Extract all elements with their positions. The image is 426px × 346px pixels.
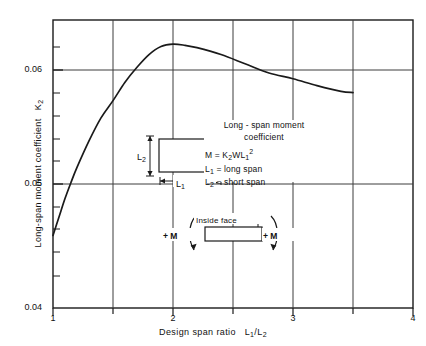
x-ticks [53, 308, 413, 316]
moment-label-left: + M [163, 231, 177, 241]
y-axis-title: Long-span moment coefficient K2 [33, 74, 44, 274]
x-tick-label-2: 2 [163, 313, 183, 323]
x-tick-label-4: 4 [403, 313, 423, 323]
x-tick-label-1: 1 [43, 313, 63, 323]
annotation-equation: M = K2WL12 [205, 146, 323, 164]
x-axis-title-ratio: L1/L2 [239, 327, 267, 337]
plan-dimension-label-short: L2 [137, 152, 146, 163]
annotation-def-long-span: L1 = long span [205, 164, 323, 178]
x-tick-label-3: 3 [283, 313, 303, 323]
x-axis-title: Design span ratio L1/L2 [0, 327, 426, 338]
y-axis-title-text: Long-span moment coefficient [33, 119, 43, 248]
annotation-text-block: Long - span moment coefficient M = K2WL1… [205, 120, 323, 191]
x-axis-title-text: Design span ratio [159, 327, 236, 337]
annotation-line-1: Long - span moment [205, 120, 323, 132]
annotation-def-short-span: L2 = short span [205, 177, 323, 191]
moment-label-right: + M [263, 231, 277, 241]
figure-container: 0.06 0.05 0.04 1 2 3 4 Long-span moment … [0, 0, 426, 346]
annotation-line-2: coefficient [205, 132, 323, 144]
y-tick-label-004: 0.04 [8, 302, 42, 312]
inside-face-label: Inside face [196, 216, 237, 225]
plan-dimension-label-long: L1 [176, 179, 185, 190]
y-axis-title-symbol: K2 [33, 100, 43, 116]
y-tick-label-006: 0.06 [8, 64, 42, 74]
